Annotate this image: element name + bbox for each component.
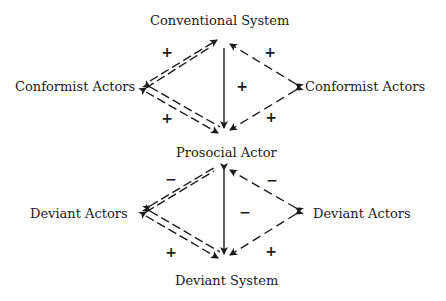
lower-bottom-left-edge	[146, 211, 220, 258]
lower-bottom-right-edge	[230, 214, 296, 255]
sign-lower-bottom-right: +	[265, 244, 277, 258]
upper-bottom-right-edge	[230, 90, 296, 130]
node-deviant-system: Deviant System	[175, 274, 278, 287]
sign-upper-bottom-right: +	[265, 110, 277, 124]
upper-top-left-edge	[146, 40, 217, 88]
sign-lower-top-right: −	[266, 173, 278, 187]
node-prosocial-actor: Prosocial Actor	[176, 146, 277, 159]
sign-upper-bottom-left: +	[161, 111, 173, 125]
node-deviant-actors-left: Deviant Actors	[30, 207, 128, 220]
upper-bottom-left-edge	[146, 87, 220, 133]
node-conformist-actors-right: Conformist Actors	[305, 80, 425, 93]
sign-lower-center: −	[239, 205, 251, 219]
lower-top-right-edge	[230, 170, 296, 208]
sign-lower-bottom-left: +	[165, 245, 177, 259]
node-deviant-actors-right: Deviant Actors	[313, 207, 411, 220]
sign-upper-center: +	[236, 79, 248, 93]
node-conventional-system: Conventional System	[150, 14, 289, 27]
node-conformist-actors-left: Conformist Actors	[15, 80, 135, 93]
sign-lower-top-left: −	[165, 172, 177, 186]
sign-upper-top-left: +	[161, 45, 173, 59]
lower-top-left-edge	[146, 166, 217, 212]
sign-upper-top-right: +	[264, 45, 276, 59]
